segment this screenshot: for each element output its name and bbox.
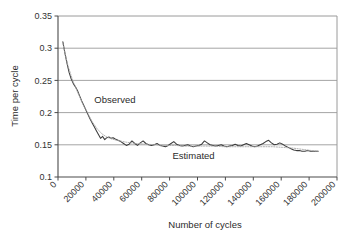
- x-tick-label: 200000: [309, 179, 337, 207]
- y-tick-label: 0.25: [34, 76, 52, 86]
- chart-figure: 0.10.150.20.250.30.35 020000400006000080…: [0, 0, 357, 236]
- line-chart: 0.10.150.20.250.30.35 020000400006000080…: [0, 0, 357, 236]
- y-tick-label: 0.35: [34, 11, 52, 21]
- y-axis-title: Time per cycle: [9, 65, 20, 126]
- x-axis-tick-labels: 0200004000060000800001000001200001400001…: [48, 179, 338, 207]
- x-tick-label: 20000: [62, 179, 87, 204]
- x-tick-label: 160000: [253, 179, 281, 207]
- y-tick-label: 0.2: [39, 108, 52, 118]
- annotation-estimated: Estimated: [172, 150, 214, 161]
- x-tick-label: 140000: [225, 179, 253, 207]
- y-tick-label: 0.3: [39, 43, 52, 53]
- x-tick-label: 60000: [117, 179, 142, 204]
- x-tick-label: 120000: [197, 179, 225, 207]
- annotation-observed: Observed: [94, 94, 135, 105]
- x-tick-label: 180000: [281, 179, 309, 207]
- y-tick-label: 0.15: [34, 140, 52, 150]
- x-tick-label: 100000: [170, 179, 198, 207]
- y-axis-tick-labels: 0.10.150.20.250.30.35: [34, 11, 52, 182]
- x-tick-label: 80000: [145, 179, 170, 204]
- x-tick-label: 40000: [89, 179, 114, 204]
- x-axis-title: Number of cycles: [168, 219, 242, 230]
- x-tick-label: 0: [48, 179, 59, 190]
